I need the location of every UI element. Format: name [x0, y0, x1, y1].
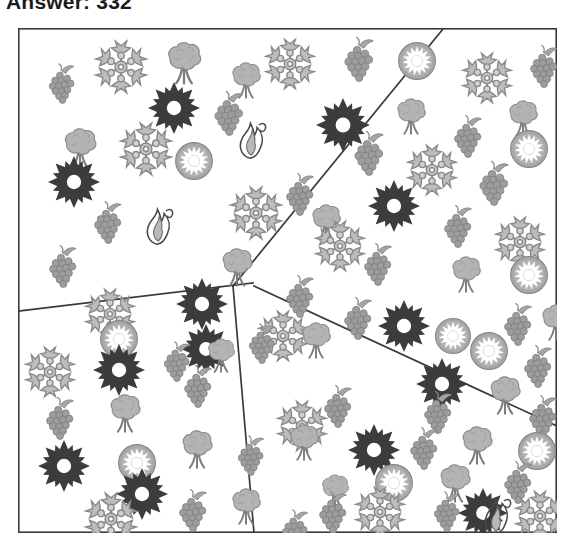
sun-circle-icon: [176, 143, 213, 180]
dark-flower-icon: [176, 278, 228, 330]
dark-flower-icon: [93, 344, 145, 396]
dark-flower-icon: [38, 440, 90, 492]
dark-flower-icon: [48, 156, 100, 208]
page-title: Answer: 332: [6, 0, 132, 14]
figure-svg: [18, 28, 557, 533]
dark-flower-icon: [368, 180, 420, 232]
sun-circle-icon: [511, 257, 548, 294]
figure-container: [18, 28, 557, 533]
dark-flower-icon: [416, 358, 468, 410]
sun-circle-icon: [511, 131, 548, 168]
sun-circle-icon: [399, 43, 436, 80]
dark-flower-icon: [148, 82, 200, 134]
dark-flower-icon: [378, 300, 430, 352]
dark-flower-icon: [316, 98, 370, 152]
sun-circle-icon: [436, 319, 471, 354]
sun-circle-icon: [471, 333, 508, 370]
sun-circle-icon: [519, 433, 556, 470]
figure-frame: [19, 29, 556, 532]
